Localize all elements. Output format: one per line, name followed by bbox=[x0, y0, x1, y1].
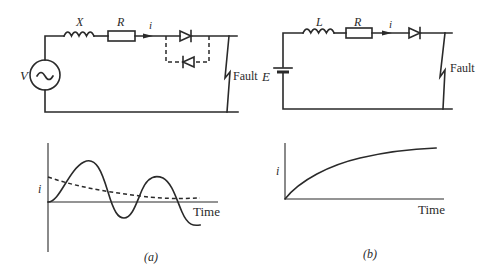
wire-a-bottom bbox=[45, 90, 238, 112]
current-arrow-b-icon bbox=[382, 31, 392, 36]
y-label-a: i bbox=[38, 182, 41, 196]
wire-b-top-left bbox=[283, 33, 303, 67]
circuit-a: V X R i Fault bbox=[20, 15, 258, 112]
resistor-label-r-a: R bbox=[116, 15, 125, 29]
fault-a-icon bbox=[225, 36, 230, 112]
current-label-b: i bbox=[389, 18, 392, 30]
sine-glyph-icon bbox=[37, 73, 53, 80]
resistor-b-icon bbox=[346, 28, 372, 38]
fault-label-b: Fault bbox=[450, 61, 475, 75]
waveform-b: i Time (b) bbox=[276, 143, 445, 261]
inductor-x-icon bbox=[64, 32, 94, 36]
circuit-b: E L R i Fault bbox=[261, 15, 475, 109]
fault-label-a: Fault bbox=[233, 69, 258, 83]
waveform-a: i Time (a) bbox=[38, 143, 220, 264]
diode-b-icon bbox=[409, 28, 420, 38]
figure-canvas: V X R i Fault E L R i Fault bbox=[0, 0, 489, 274]
inductor-label-l: L bbox=[315, 15, 323, 29]
inductor-label-x: X bbox=[75, 15, 84, 29]
wire-b-bottom bbox=[283, 73, 452, 109]
source-label-e: E bbox=[261, 69, 270, 84]
caption-b: (b) bbox=[363, 247, 377, 261]
rising-current-curve bbox=[285, 148, 436, 199]
wire-a-top-left bbox=[45, 36, 64, 60]
diode-reverse-a-icon bbox=[183, 57, 194, 67]
fault-current-curve bbox=[48, 161, 200, 226]
dc-offset-curve bbox=[48, 177, 200, 199]
y-label-b: i bbox=[276, 164, 279, 178]
source-label-v: V bbox=[20, 68, 30, 83]
dashed-bypass-box bbox=[166, 36, 209, 62]
fault-b-icon bbox=[440, 33, 445, 109]
current-label-a: i bbox=[149, 19, 152, 31]
resistor-a-icon bbox=[108, 31, 135, 41]
resistor-label-r-b: R bbox=[353, 15, 362, 29]
caption-a: (a) bbox=[144, 250, 158, 264]
current-arrow-a-icon bbox=[143, 34, 153, 39]
x-label-a: Time bbox=[193, 204, 220, 219]
x-label-b: Time bbox=[418, 202, 445, 217]
inductor-l-icon bbox=[303, 29, 334, 33]
diode-forward-a-icon bbox=[180, 31, 191, 41]
